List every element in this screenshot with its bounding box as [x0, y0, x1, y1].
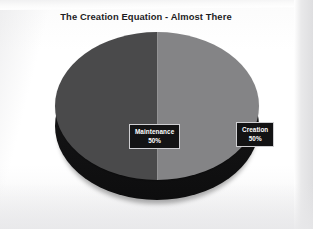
- data-label-creation-name: Creation: [242, 126, 268, 133]
- pie-slice-divider: [157, 32, 158, 180]
- pie-slice-creation[interactable]: [157, 32, 259, 180]
- data-label-creation-value: 50%: [242, 134, 268, 143]
- data-label-maintenance-name: Maintenance: [135, 128, 174, 135]
- pie-top-face: [55, 32, 259, 180]
- data-label-creation: Creation 50%: [236, 122, 274, 147]
- slide-photo-screenshot: The Creation Equation - Almost There Mai…: [0, 0, 313, 229]
- pie-slice-maintenance[interactable]: [55, 32, 157, 180]
- pie-chart: Maintenance 50% Creation 50%: [55, 32, 259, 202]
- chart-title: The Creation Equation - Almost There: [0, 11, 292, 22]
- data-label-maintenance: Maintenance 50%: [129, 124, 180, 149]
- data-label-maintenance-value: 50%: [135, 136, 174, 145]
